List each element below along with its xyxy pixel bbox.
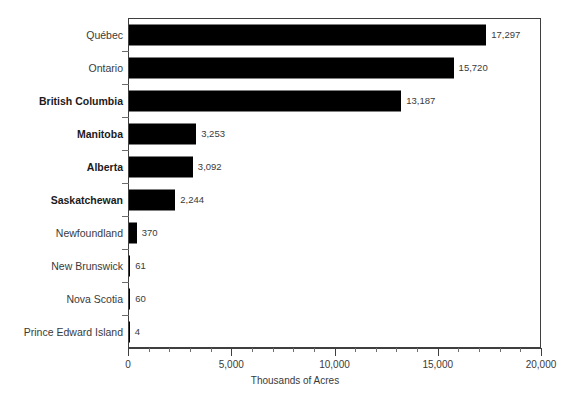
category-label-wrap: Manitoba [0,117,129,150]
bar [129,222,137,243]
bar-row: British Columbia13,187 [0,84,584,117]
x-axis-minor-tick [273,348,274,352]
bar [129,123,196,144]
category-label: Nova Scotia [7,292,129,305]
category-label: Ontario [7,61,129,74]
bar-row: Saskatchewan2,244 [0,183,584,216]
bar [129,57,454,78]
x-axis-major-tick [128,348,129,356]
bar-value-label: 15,720 [454,62,488,74]
bar-row: Manitoba3,253 [0,117,584,150]
x-axis-tick-label: 15,000 [422,358,453,371]
x-axis-major-tick [541,348,542,356]
bar-value-label: 60 [130,293,146,305]
category-label-wrap: New Brunswick [0,249,129,282]
bar-value-label: 13,187 [401,95,435,107]
bar-row: Québec17,297 [0,18,584,51]
x-axis-minor-tick [417,348,418,352]
category-label-wrap: Ontario [0,51,129,84]
bar-value-label: 370 [137,227,158,239]
bar-value-label: 3,092 [193,161,222,173]
category-label: Saskatchewan [7,193,129,206]
x-axis-tick-label: 0 [125,358,131,371]
bar [129,189,175,210]
x-axis-minor-tick [479,348,480,352]
bar-value-label: 4 [130,326,140,338]
x-axis-minor-tick [169,348,170,352]
bar [129,24,486,45]
x-axis-major-tick [335,348,336,356]
x-axis-tick-label: 5,000 [219,358,244,371]
bar-row: Nova Scotia60 [0,282,584,315]
category-label-wrap: Nova Scotia [0,282,129,315]
bar-row: New Brunswick61 [0,249,584,282]
category-label-wrap: British Columbia [0,84,129,117]
category-label-wrap: Québec [0,18,129,51]
x-axis-tick-label: 20,000 [526,358,557,371]
bar-chart: Québec17,297Ontario15,720British Columbi… [0,0,584,404]
x-axis-minor-tick [396,348,397,352]
category-label-wrap: Newfoundland [0,216,129,249]
x-axis-minor-tick [520,348,521,352]
x-axis-minor-tick [376,348,377,352]
x-axis-major-tick [231,348,232,356]
category-label-wrap: Alberta [0,150,129,183]
category-label: Québec [7,28,129,41]
x-axis-title: Thousands of Acres [0,374,584,387]
bar-row: Newfoundland370 [0,216,584,249]
category-label: Prince Edward Island [7,325,129,338]
x-axis-title-text: Thousands of Acres [251,374,339,387]
x-axis-minor-tick [149,348,150,352]
category-label: Newfoundland [7,226,129,239]
x-axis-minor-tick [458,348,459,352]
x-axis-minor-tick [293,348,294,352]
category-label-wrap: Saskatchewan [0,183,129,216]
category-label: Alberta [7,160,129,173]
bar-value-label: 17,297 [486,29,520,41]
bar-row: Ontario15,720 [0,51,584,84]
x-axis-minor-tick [190,348,191,352]
category-label: Manitoba [7,127,129,140]
bar-value-label: 3,253 [196,128,225,140]
x-axis-tick-label: 10,000 [319,358,350,371]
category-label: British Columbia [7,94,129,107]
bar-row: Alberta3,092 [0,150,584,183]
x-axis-major-tick [438,348,439,356]
category-label-wrap: Prince Edward Island [0,315,129,348]
bar-value-label: 2,244 [175,194,204,206]
x-axis-minor-tick [211,348,212,352]
x-axis-minor-tick [355,348,356,352]
bar-row: Prince Edward Island4 [0,315,584,348]
bar [129,156,193,177]
bar [129,90,401,111]
bar-value-label: 61 [130,260,146,272]
x-axis-minor-tick [500,348,501,352]
x-axis-minor-tick [252,348,253,352]
x-axis-minor-tick [314,348,315,352]
category-label: New Brunswick [7,259,129,272]
